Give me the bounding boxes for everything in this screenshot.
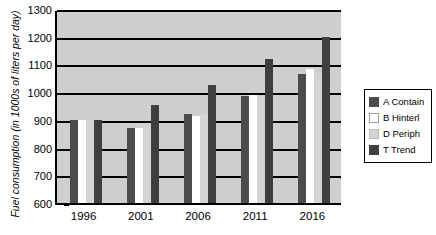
bar[interactable] <box>127 128 135 203</box>
bar[interactable] <box>314 73 322 203</box>
x-axis-tick-label: 2001 <box>111 210 171 222</box>
legend-swatch-icon <box>369 113 379 123</box>
legend-swatch-icon <box>369 97 379 107</box>
bar-chart-figure: Fuel consumption (in 1000s of liters per… <box>0 0 436 235</box>
legend-item[interactable]: D Periph <box>369 126 428 142</box>
bar[interactable] <box>151 105 159 203</box>
y-axis-tick-label: 800 <box>16 144 52 155</box>
bar-group <box>184 11 216 203</box>
y-axis-tick-label: 1000 <box>16 88 52 99</box>
y-axis-tick-label: 600 <box>16 199 52 210</box>
y-axis-tick-label: 1300 <box>16 5 52 16</box>
bar[interactable] <box>192 116 200 203</box>
bar[interactable] <box>184 114 192 203</box>
bar[interactable] <box>249 95 257 203</box>
y-axis-tick-label: 1200 <box>16 33 52 44</box>
bar[interactable] <box>208 85 216 203</box>
bar[interactable] <box>322 37 330 203</box>
bar[interactable] <box>135 128 143 203</box>
legend-swatch-icon <box>369 145 379 155</box>
x-axis-tick-label: 2016 <box>282 210 342 222</box>
legend-item-label: B Hinterl <box>383 113 419 123</box>
bar[interactable] <box>200 114 208 203</box>
y-axis-tick-label: 900 <box>16 116 52 127</box>
bar-group <box>127 11 159 203</box>
legend-swatch-icon <box>369 129 379 139</box>
bar-group <box>70 11 102 203</box>
y-axis-tick-label: 1100 <box>16 60 52 71</box>
y-axis-tick-label: 700 <box>16 171 52 182</box>
bar-group <box>298 11 330 203</box>
bar[interactable] <box>94 120 102 203</box>
bar[interactable] <box>298 74 306 203</box>
legend-item[interactable]: T Trend <box>369 142 428 158</box>
bar[interactable] <box>143 125 151 203</box>
x-axis-tick-label: 1996 <box>54 210 114 222</box>
y-axis-tick-mark <box>64 205 69 206</box>
y-axis-tick-labels: 1300120011001000900800700600 <box>14 0 52 235</box>
x-axis-tick-label: 2011 <box>225 210 285 222</box>
bar[interactable] <box>306 69 314 203</box>
plot-area <box>55 11 341 205</box>
bar[interactable] <box>86 120 94 203</box>
legend-item[interactable]: B Hinterl <box>369 110 428 126</box>
bar[interactable] <box>257 96 265 203</box>
legend-item-label: D Periph <box>383 129 420 139</box>
bar[interactable] <box>265 59 273 203</box>
bar[interactable] <box>241 96 249 203</box>
legend-item-label: T Trend <box>383 145 416 155</box>
x-axis-tick-label: 2006 <box>168 210 228 222</box>
bar[interactable] <box>70 120 78 203</box>
bar[interactable] <box>78 120 86 203</box>
legend-item-label: A Contain <box>383 97 424 107</box>
bar-group <box>241 11 273 203</box>
legend-item[interactable]: A Contain <box>369 94 428 110</box>
chart-legend: A ContainB HinterlD PeriphT Trend <box>364 89 432 163</box>
